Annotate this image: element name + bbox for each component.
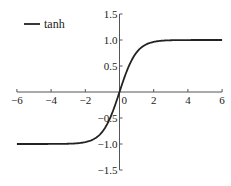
y-tick-label: 1.0	[104, 34, 118, 46]
legend-label: tanh	[44, 17, 65, 31]
tanh-chart: −6−4−20246−1.5−1.0−0.50.51.01.5 tanh	[0, 0, 231, 186]
y-tick-label: −1.5	[98, 164, 118, 176]
y-tick-label: 1.5	[104, 8, 118, 20]
y-tick-label: 0.5	[104, 60, 118, 72]
legend: tanh	[24, 17, 65, 31]
x-tick-label: 6	[219, 94, 225, 106]
y-tick-label: −1.0	[98, 138, 118, 150]
x-tick-label: 2	[151, 94, 157, 106]
x-tick-label: −4	[45, 94, 57, 106]
x-tick-label: 4	[185, 94, 191, 106]
x-tick-label: −2	[79, 94, 91, 106]
x-tick-label: 0	[122, 94, 128, 106]
x-tick-label: −6	[11, 94, 23, 106]
